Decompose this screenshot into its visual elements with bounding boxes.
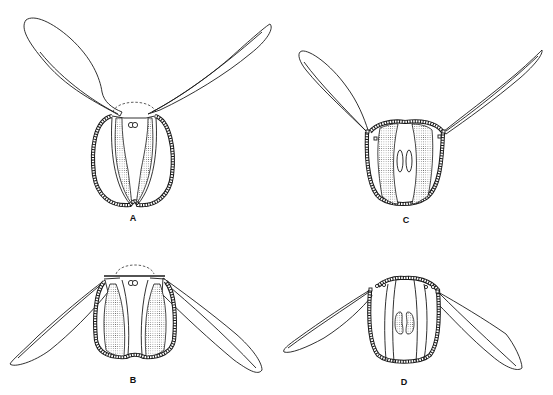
panel-a-circle-right bbox=[132, 122, 137, 127]
panel-a: A bbox=[24, 18, 271, 223]
panel-c-label: C bbox=[403, 215, 410, 225]
panel-c-oval-right bbox=[406, 150, 412, 172]
panel-b-circle-right bbox=[132, 280, 137, 285]
panel-d-hinge-node bbox=[382, 283, 385, 286]
panel-d-hinge-node bbox=[375, 284, 378, 287]
panel-c: C bbox=[299, 50, 542, 225]
panel-d-body-wall bbox=[369, 278, 438, 362]
panel-d-label: D bbox=[401, 377, 408, 387]
panel-d-kidney-left bbox=[395, 312, 403, 334]
panel-c-hinge-node bbox=[366, 130, 369, 133]
panel-d-hinge-node bbox=[436, 290, 439, 293]
panel-d: D bbox=[284, 278, 522, 387]
panel-d-kidney-right bbox=[406, 312, 414, 334]
panel-b-dashed-arc bbox=[116, 265, 154, 274]
panel-a-left-wing bbox=[24, 18, 122, 116]
panel-a-body-wall bbox=[93, 116, 173, 205]
panel-a-left-band bbox=[115, 118, 132, 204]
panel-b-right-lobe bbox=[145, 284, 166, 356]
panel-c-left-wing bbox=[299, 51, 368, 132]
panel-c-oval-left bbox=[397, 150, 403, 172]
panel-b-label: B bbox=[130, 375, 137, 385]
panel-b: B bbox=[10, 265, 262, 385]
panel-c-right-wing bbox=[443, 50, 542, 134]
panel-a-right-wing bbox=[148, 24, 271, 114]
panel-d-hinge-node bbox=[431, 285, 434, 288]
diagram-canvas: A C bbox=[0, 0, 553, 395]
panel-c-left-zone bbox=[378, 124, 398, 204]
panel-d-hinge-node bbox=[369, 288, 372, 291]
panel-b-left-lobe bbox=[104, 284, 125, 356]
panel-a-right-band bbox=[136, 118, 153, 204]
panel-c-hinge-node bbox=[374, 137, 377, 140]
panel-c-hinge-node bbox=[442, 130, 445, 133]
panel-a-label: A bbox=[130, 213, 137, 223]
panel-d-right-wing bbox=[438, 292, 522, 370]
panel-c-hinge-node bbox=[438, 135, 441, 138]
